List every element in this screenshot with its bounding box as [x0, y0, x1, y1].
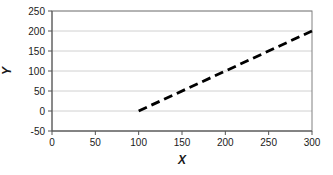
x-tick-label: 100: [130, 137, 147, 148]
y-axis-title: Y: [0, 66, 14, 75]
x-tick-label: 300: [304, 137, 321, 148]
y-tick-label: 100: [28, 66, 45, 77]
x-axis-title: X: [177, 153, 187, 167]
x-tick-label: 50: [90, 137, 102, 148]
y-tick-label: 150: [28, 46, 45, 57]
x-tick-label: 250: [260, 137, 277, 148]
y-tick-label: 50: [34, 86, 46, 97]
y-tick-label: 200: [28, 26, 45, 37]
y-tick-label: -50: [31, 126, 46, 137]
y-tick-label: 250: [28, 6, 45, 17]
line-chart: -50050100150200250050100150200250300 Y X: [0, 0, 333, 175]
chart-container: -50050100150200250050100150200250300 Y X: [0, 0, 333, 175]
x-tick-label: 0: [49, 137, 55, 148]
chart-background: [0, 0, 333, 175]
x-tick-label: 200: [217, 137, 234, 148]
x-tick-label: 150: [174, 137, 191, 148]
y-tick-label: 0: [39, 106, 45, 117]
